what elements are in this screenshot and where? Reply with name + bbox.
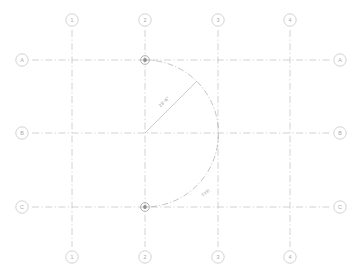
grid-bubble-left-c-label: C [20, 204, 24, 210]
grid-bubble-left-a[interactable]: A [16, 54, 28, 66]
grid-bubble-top-1[interactable]: 1 [66, 14, 78, 26]
grid-bubble-left-b-label: B [20, 130, 24, 136]
architectural-grid-drawing: 28'-6" TYP. 1 2 3 4 [0, 0, 362, 277]
grid-bubble-left-b[interactable]: B [16, 127, 28, 139]
grid-bubble-top-2-label: 2 [143, 17, 146, 23]
grid-bubble-right-b-label: B [338, 130, 342, 136]
grid-bubble-right-a[interactable]: A [334, 54, 346, 66]
grid-bubbles-bottom: 1 2 3 4 [66, 251, 296, 263]
radius-dimension-label: 28'-6" [158, 95, 171, 108]
grid-bubble-top-3-label: 3 [216, 17, 219, 23]
grid-bubbles-right: A B C [334, 54, 346, 213]
grid-bubble-bottom-2-label: 2 [143, 254, 146, 260]
grid-bubble-top-3[interactable]: 3 [212, 14, 224, 26]
grid-bubble-top-1-label: 1 [70, 17, 73, 23]
floor-plan-canvas: 28'-6" TYP. 1 2 3 4 [0, 0, 362, 277]
grid-bubble-right-c-label: C [338, 204, 342, 210]
grid-bubble-left-a-label: A [20, 57, 24, 63]
grid-bubble-top-4[interactable]: 4 [284, 14, 296, 26]
grid-bubble-bottom-3[interactable]: 3 [212, 251, 224, 263]
grid-bubble-bottom-2[interactable]: 2 [139, 251, 151, 263]
grid-bubble-bottom-4[interactable]: 4 [284, 251, 296, 263]
radial-wall-arc [145, 60, 218, 207]
grid-bubble-left-c[interactable]: C [16, 201, 28, 213]
typical-note-label: TYP. [200, 188, 211, 198]
grid-bubble-right-a-label: A [338, 57, 342, 63]
horizontal-gridlines [32, 60, 330, 207]
radius-dimension-line [145, 81, 197, 133]
grid-bubble-bottom-3-label: 3 [216, 254, 219, 260]
grid-bubbles-top: 1 2 3 4 [66, 14, 296, 26]
grid-bubble-bottom-1[interactable]: 1 [66, 251, 78, 263]
grid-bubble-right-b[interactable]: B [334, 127, 346, 139]
vertical-gridlines [72, 30, 290, 247]
grid-bubble-top-2[interactable]: 2 [139, 14, 151, 26]
grid-bubble-bottom-1-label: 1 [70, 254, 73, 260]
grid-bubble-right-c[interactable]: C [334, 201, 346, 213]
grid-bubble-top-4-label: 4 [288, 17, 291, 23]
grid-bubbles-left: A B C [16, 54, 28, 213]
grid-bubble-bottom-4-label: 4 [288, 254, 291, 260]
